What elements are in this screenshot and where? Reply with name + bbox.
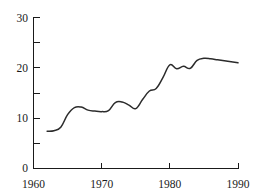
chart-canvas: 30 20 10 0 1960 1970 1980 1990: [0, 0, 267, 196]
data-series-line: [47, 58, 238, 131]
y-tick-label-20: 20: [17, 62, 29, 74]
y-tick-label-10: 10: [17, 112, 29, 124]
y-tick-label-30: 30: [17, 12, 29, 24]
x-tick-label-1970: 1970: [90, 178, 113, 190]
x-tick-label-1960: 1960: [22, 178, 45, 190]
line-chart: 30 20 10 0 1960 1970 1980 1990: [0, 0, 267, 196]
y-tick-label-0: 0: [22, 162, 28, 174]
x-tick-label-1980: 1980: [158, 178, 181, 190]
x-tick-label-1990: 1990: [227, 178, 250, 190]
